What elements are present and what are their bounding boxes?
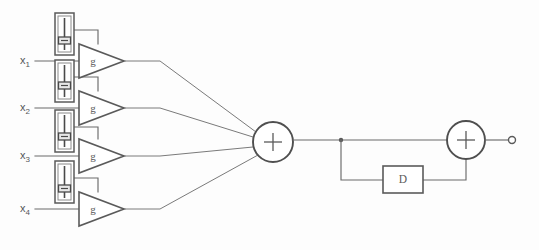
delay-block[interactable]: D	[383, 166, 423, 193]
sum-wire-2	[124, 108, 253, 137]
gain-label: g	[90, 203, 96, 215]
slider-group-4[interactable]	[55, 161, 74, 203]
signal-flow-diagram: g g g g	[0, 0, 539, 250]
slider-wire-4	[74, 178, 98, 192]
amplifier-triangle	[79, 44, 124, 78]
sum-wire-1	[124, 61, 256, 132]
amplifier-triangle	[79, 91, 124, 125]
delay-label: D	[399, 173, 407, 185]
slider-wire-2	[74, 77, 98, 91]
slider-wire-3	[74, 127, 98, 139]
svg-text:x1: x1	[20, 54, 31, 69]
gain-triangle-1[interactable]: g	[79, 44, 124, 78]
input-label-subscript: 4	[26, 208, 31, 217]
diagram-canvas: g g g g	[0, 0, 539, 250]
sum-wire-4	[124, 155, 258, 209]
svg-text:x2: x2	[20, 101, 31, 116]
input-label-subscript: 3	[26, 155, 31, 164]
input-label-x2: x2	[20, 101, 31, 116]
sum-node-feedback[interactable]	[447, 121, 485, 159]
feedback-wire-to-delay	[341, 140, 383, 180]
gain-label: g	[90, 55, 96, 67]
gain-triangle-4[interactable]: g	[79, 192, 124, 226]
input-label-x4: x4	[20, 202, 31, 217]
amplifier-triangle	[79, 139, 124, 173]
input-label-x3: x3	[20, 149, 31, 164]
summing-input-wires	[124, 61, 258, 209]
slider-group-2[interactable]	[55, 60, 74, 102]
svg-text:x4: x4	[20, 202, 31, 217]
svg-text:x3: x3	[20, 149, 31, 164]
gain-triangle-3[interactable]: g	[79, 139, 124, 173]
gain-label: g	[90, 102, 96, 114]
sum-wire-3	[124, 147, 253, 156]
input-label-subscript: 2	[26, 107, 31, 116]
feedback-wire-from-delay	[423, 159, 466, 180]
gain-label: g	[90, 150, 96, 162]
slider-group-3[interactable]	[55, 110, 74, 152]
amplifier-triangle	[79, 192, 124, 226]
input-label-x1: x1	[20, 54, 31, 69]
input-label-subscript: 1	[26, 60, 31, 69]
output-terminal-icon[interactable]	[509, 137, 516, 144]
gain-triangle-2[interactable]: g	[79, 91, 124, 125]
slider-group-1[interactable]	[55, 13, 74, 55]
sum-node-main[interactable]	[253, 122, 293, 162]
slider-wire-1	[74, 30, 98, 44]
